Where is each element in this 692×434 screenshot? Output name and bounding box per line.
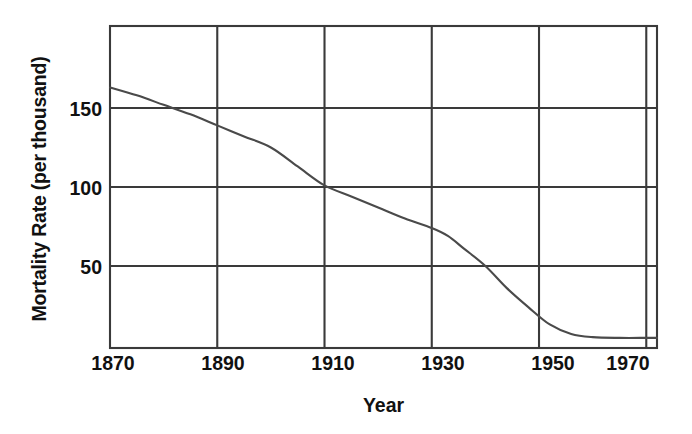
x-tick-label-1930: 1930	[391, 352, 495, 375]
y-tick-label-150: 150	[52, 98, 102, 121]
x-axis-title: Year	[110, 394, 657, 417]
x-tick-label-1910: 1910	[281, 352, 385, 375]
x-tick-label-1870: 1870	[61, 352, 165, 375]
y-axis-title: Mortality Rate (per thousand)	[22, 28, 56, 350]
x-tick-label-1970: 1970	[576, 352, 680, 375]
x-tick-label-1890: 1890	[171, 352, 275, 375]
y-tick-label-50: 50	[52, 256, 102, 279]
mortality-rate-line-chart: Mortality Rate (per thousand) Year 150 1…	[0, 0, 692, 434]
y-tick-label-100: 100	[52, 177, 102, 200]
